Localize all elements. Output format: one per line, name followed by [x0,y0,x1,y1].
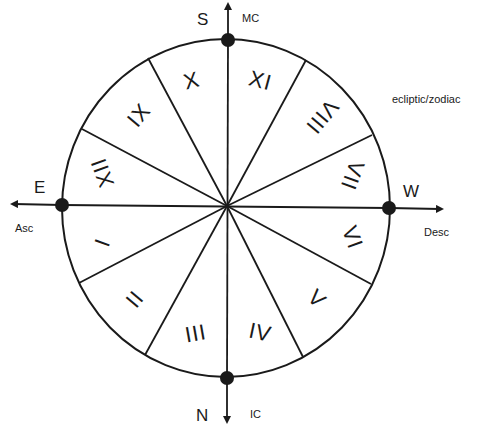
label-desc: Desc [424,226,450,238]
house-1: I [89,235,115,250]
house-6: VI [337,222,368,252]
house-4: IV [247,318,274,347]
house-8: VIII [301,95,344,139]
label-mc: MC [242,12,259,24]
asc-point [55,198,69,212]
ic-point [220,371,234,385]
house-10: X [181,66,203,94]
house-12: XII [86,154,120,191]
house-11: XI [246,65,274,95]
house-5: V [303,284,332,313]
label-north: N [196,406,208,425]
desc-point [382,201,396,215]
label-west: W [403,182,419,201]
house-wheel-diagram: S MC N IC E Asc W Desc ecliptic/zodiac I… [0,0,477,429]
label-east: E [34,178,45,197]
mc-point [221,33,235,47]
meridian-axis [227,6,228,420]
label-ic: IC [250,408,261,420]
house-7: VII [336,157,370,194]
label-asc: Asc [15,222,34,234]
house-2: II [121,285,149,312]
house-3: III [183,319,208,347]
label-ecliptic: ecliptic/zodiac [392,93,461,105]
house-9: IX [122,98,156,132]
label-south: S [197,10,208,29]
